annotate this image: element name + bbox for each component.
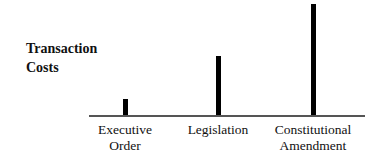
bar-constitutional-amendment [311, 4, 316, 115]
bar-legislation [216, 56, 221, 115]
category-label-constitutional-amendment: Constitutional Amendment [275, 122, 352, 154]
category-label-legislation: Legislation [188, 122, 249, 138]
y-axis-label: Transaction Costs [26, 39, 97, 77]
category-label-line: Constitutional [275, 122, 352, 138]
y-axis-label-line2: Costs [26, 58, 97, 77]
x-axis-line [89, 115, 365, 117]
category-label-line: Legislation [188, 122, 249, 138]
y-axis-label-line1: Transaction [26, 39, 97, 58]
category-label-line: Executive [98, 122, 152, 138]
category-label-line: Amendment [275, 138, 352, 154]
category-label-executive-order: Executive Order [98, 122, 152, 154]
category-label-line: Order [98, 138, 152, 154]
bar-executive-order [123, 99, 128, 115]
